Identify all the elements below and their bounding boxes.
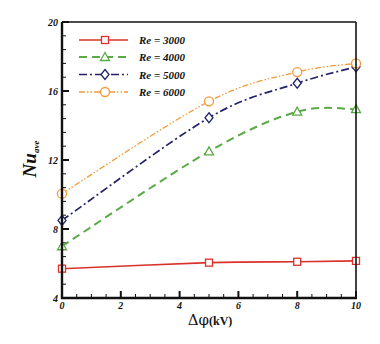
- y-tick-label: 8: [53, 224, 58, 235]
- y-axis-label-main: Nu: [19, 153, 40, 178]
- legend-item-re-5000: Re = 5000: [79, 69, 185, 81]
- diamond-marker-icon: [101, 70, 109, 80]
- x-tick-label: 8: [295, 300, 300, 311]
- square-marker-icon: [102, 37, 109, 44]
- series-line: [62, 63, 356, 193]
- plot-frame: [61, 22, 357, 299]
- legend-item-re-6000: Re = 6000: [79, 86, 185, 98]
- diamond-marker-icon: [205, 113, 213, 123]
- y-tick-label: 20: [47, 17, 58, 28]
- x-axis-label-symbol: Δφ: [188, 311, 209, 329]
- line-chart: 024681048121620 Re = 3000 Re = 4000 Re =…: [0, 0, 380, 344]
- legend-item-re-4000: Re = 4000: [79, 51, 185, 63]
- x-axis-label: Δφ(kV): [188, 311, 233, 329]
- circle-marker-icon: [101, 88, 110, 97]
- diamond-marker-icon: [293, 78, 301, 88]
- triangle-marker-icon: [205, 147, 214, 155]
- legend-label: Re = 3000: [138, 34, 185, 46]
- x-tick-label: 0: [60, 300, 65, 311]
- legend-item-re-3000: Re = 3000: [79, 34, 185, 46]
- legend-label: Re = 6000: [138, 86, 185, 98]
- legend-label: Re = 5000: [138, 69, 185, 81]
- x-tick-label: 10: [351, 300, 361, 311]
- x-tick-label: 4: [176, 300, 182, 311]
- y-tick-label: 4: [52, 293, 58, 304]
- y-tick-label: 12: [48, 155, 58, 166]
- circle-marker-icon: [293, 68, 302, 77]
- series-line: [62, 108, 356, 246]
- y-axis-label-subscript: ave: [31, 141, 41, 154]
- legend: Re = 3000 Re = 4000 Re = 5000 Re = 6000: [79, 34, 185, 98]
- square-marker-icon: [294, 258, 301, 265]
- y-axis-label: Nuave: [19, 141, 41, 179]
- x-tick-label: 6: [236, 300, 241, 311]
- legend-label: Re = 4000: [138, 51, 185, 63]
- y-tick-label: 16: [48, 86, 58, 97]
- square-marker-icon: [206, 259, 213, 266]
- x-tick-label: 2: [117, 300, 123, 311]
- x-axis-label-unit: (kV): [209, 314, 232, 328]
- axis-ticks: [62, 22, 356, 298]
- circle-marker-icon: [205, 97, 214, 106]
